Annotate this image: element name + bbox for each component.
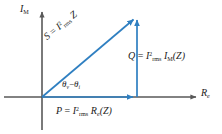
axis-label-imaginary-subscript: M: [23, 8, 29, 15]
axis-label-imaginary: IM: [20, 4, 29, 15]
reactive-power-equals: =: [138, 50, 144, 61]
real-power-subscript: rms: [79, 110, 88, 117]
real-power-symbol: P: [56, 105, 62, 116]
axis-label-real: Re: [201, 88, 210, 99]
reactive-power-label: Q = I2rms IM(Z): [128, 51, 185, 62]
reactive-power-argument: (Z): [173, 50, 185, 61]
reactive-power-subscript: rms: [152, 55, 161, 62]
power-triangle-figure: IM Re S = I2rms Z Q = I2rms IM(Z) P = I2…: [0, 0, 222, 134]
real-power-label: P = I2rms Re(Z): [56, 106, 112, 117]
phase-angle-label: θv−θi: [62, 80, 80, 90]
phase-angle-theta-i-subscript: i: [78, 84, 80, 90]
axis-label-real-subscript: e: [207, 92, 210, 99]
real-power-argument: (Z): [100, 105, 112, 116]
real-power-equals: =: [65, 105, 71, 116]
reactive-power-symbol: Q: [128, 50, 135, 61]
